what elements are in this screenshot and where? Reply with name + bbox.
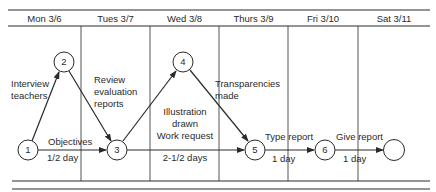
node-2-label: 2 <box>54 56 74 68</box>
node-4-label: 4 <box>173 56 193 68</box>
activity-type-report: Type report <box>265 131 313 143</box>
activity-give-report: Give report <box>336 131 383 143</box>
activity-review-line1: Review <box>94 74 125 86</box>
activity-type-duration: 1 day <box>272 153 295 165</box>
activity-illustration-line2: drawn <box>155 118 215 130</box>
day-header-thu: Thurs 3/9 <box>219 13 288 24</box>
activity-give-duration: 1 day <box>343 153 366 165</box>
node-6-label: 6 <box>315 144 335 156</box>
node-end <box>384 140 405 161</box>
activity-review-line3: reports <box>94 98 124 110</box>
day-header-mon: Mon 3/6 <box>8 13 81 24</box>
day-header-tue: Tues 3/7 <box>81 13 150 24</box>
activity-review-line2: evaluation <box>94 86 137 98</box>
activity-objectives: Objectives <box>48 136 92 148</box>
day-header-fri: Fri 3/10 <box>288 13 358 24</box>
activity-mid-duration: 2-1/2 days <box>152 152 218 164</box>
activity-illustration-line3: Work request <box>152 130 218 142</box>
activity-illustration-line1: Illustration <box>155 106 215 118</box>
activity-transparencies-line1: Transparencies <box>215 78 280 90</box>
day-header-wed: Wed 3/8 <box>150 13 219 24</box>
day-header-sat: Sat 3/11 <box>358 13 430 24</box>
activity-interview-line2: teachers <box>11 90 47 102</box>
activity-transparencies-line2: made <box>215 90 239 102</box>
node-5-label: 5 <box>245 144 265 156</box>
node-1-label: 1 <box>18 144 38 156</box>
activity-interview-line1: Interview <box>11 78 49 90</box>
node-3-label: 3 <box>107 144 127 156</box>
activity-objectives-duration: 1/2 day <box>47 152 78 164</box>
